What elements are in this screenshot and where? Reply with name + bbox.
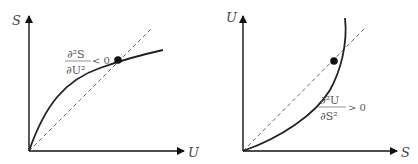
right-panel: U S ∂²U ∂S² > 0 bbox=[226, 10, 410, 160]
left-dashed-line bbox=[29, 28, 152, 151]
right-annotation-denominator: ∂S² bbox=[320, 110, 338, 123]
left-x-axis-label: U bbox=[188, 145, 200, 160]
right-x-axis-label: S bbox=[401, 145, 410, 160]
left-annotation-relation: < 0 bbox=[92, 55, 110, 66]
left-annotation-denominator: ∂U² bbox=[66, 64, 85, 77]
right-intersection-point bbox=[330, 57, 338, 65]
left-panel: S U ∂²S ∂U² < 0 bbox=[12, 13, 200, 160]
right-convex-curve bbox=[243, 18, 346, 151]
right-annotation-numerator: ∂²U bbox=[320, 94, 339, 107]
diagram-canvas: S U ∂²S ∂U² < 0 U S ∂²U ∂S² > 0 bbox=[0, 0, 418, 164]
right-dashed-line bbox=[243, 28, 365, 151]
right-y-axis-label: U bbox=[226, 10, 238, 25]
left-annotation-numerator: ∂²S bbox=[67, 48, 85, 61]
left-tangent-point bbox=[114, 56, 122, 64]
right-annotation-relation: > 0 bbox=[348, 102, 366, 113]
left-y-axis-label: S bbox=[12, 13, 21, 28]
right-annotation: ∂²U ∂S² > 0 bbox=[318, 94, 366, 123]
